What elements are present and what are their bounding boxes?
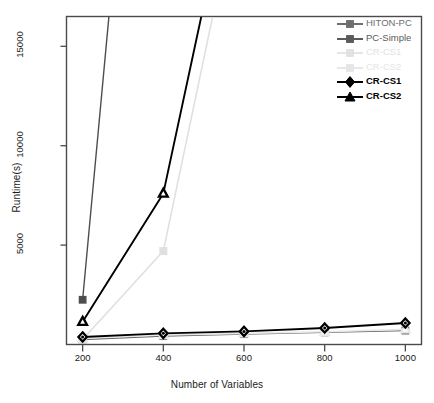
legend-item-label: PC-Simple — [366, 32, 411, 43]
y-axis-title: Runtime(s) — [11, 128, 22, 248]
series-cr-cs1-2 — [79, 0, 244, 343]
legend-item-4[interactable]: CR-CS1 — [336, 75, 432, 89]
legend-item-1[interactable]: PC-Simple — [336, 32, 432, 46]
data-point-square — [79, 297, 85, 303]
runtime-line-chart: 50001000015000 2004006008001000 Runtime(… — [0, 0, 434, 403]
legend-square-icon — [336, 61, 364, 75]
x-tick-label: 1000 — [395, 352, 416, 363]
chart-legend: HITON-PCPC-SimpleCR-CS1CR-CS2CR-CS1CR-CS… — [336, 17, 432, 105]
y-axis-ticks — [61, 46, 67, 245]
x-axis-title: Number of Variables — [0, 379, 434, 390]
x-tick-label: 200 — [75, 352, 91, 363]
x-tick-label: 600 — [236, 352, 252, 363]
series-cr-cs2-5 — [78, 0, 244, 325]
data-point-diamond — [401, 318, 409, 327]
legend-item-3[interactable]: CR-CS2 — [336, 61, 432, 75]
legend-diamond-icon — [336, 75, 364, 89]
legend-item-5[interactable]: CR-CS2 — [336, 90, 432, 104]
legend-item-0[interactable]: HITON-PC — [336, 17, 432, 31]
legend-item-label: HITON-PC — [366, 17, 412, 28]
x-tick-label: 800 — [317, 352, 333, 363]
x-tick-label: 400 — [155, 352, 171, 363]
data-point-square — [160, 248, 166, 254]
x-axis-ticks — [83, 345, 406, 352]
legend-item-label: CR-CS2 — [366, 90, 401, 101]
legend-item-label: CR-CS1 — [366, 46, 401, 57]
legend-square-icon — [336, 17, 364, 31]
legend-square-icon — [336, 46, 364, 60]
data-point-triangle — [159, 189, 168, 197]
series-hiton-pc-0 — [79, 0, 163, 303]
legend-item-label: CR-CS2 — [366, 61, 401, 72]
legend-square-icon — [336, 32, 364, 46]
legend-triangle-icon — [336, 90, 364, 104]
y-tick-label: 15000 — [14, 25, 25, 65]
legend-item-2[interactable]: CR-CS1 — [336, 46, 432, 60]
legend-item-label: CR-CS1 — [366, 75, 401, 86]
